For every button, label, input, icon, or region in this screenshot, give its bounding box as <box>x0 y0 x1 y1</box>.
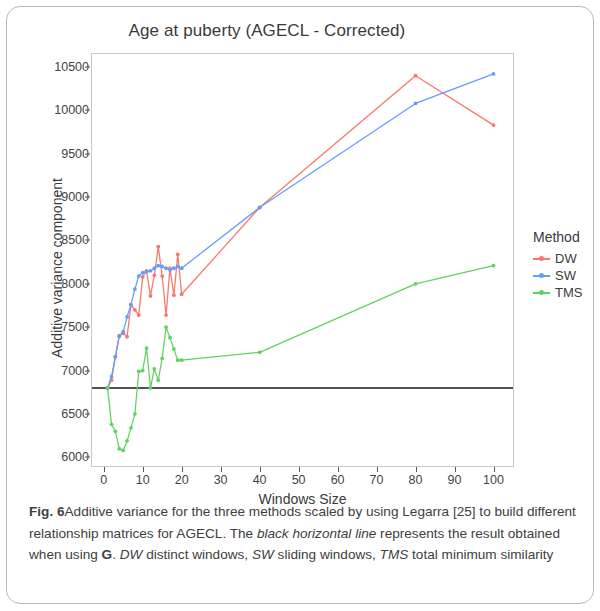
legend-item-dw[interactable]: DW <box>533 250 600 267</box>
data-point <box>133 287 137 291</box>
x-tick-label: 60 <box>318 473 358 487</box>
y-tick-mark <box>85 327 90 328</box>
data-point <box>258 206 262 210</box>
data-point <box>168 268 172 272</box>
x-tick-mark <box>338 467 339 472</box>
x-tick-label: 90 <box>435 473 475 487</box>
data-point <box>164 325 168 329</box>
x-tick-label: 70 <box>357 473 397 487</box>
data-point <box>172 266 176 270</box>
data-point <box>172 293 176 297</box>
y-tick-mark <box>85 283 90 284</box>
data-point <box>180 358 184 362</box>
y-tick-mark <box>85 457 90 458</box>
legend-item-sw[interactable]: SW <box>533 267 600 284</box>
x-tick-label: 20 <box>162 473 202 487</box>
data-point <box>141 369 145 373</box>
data-point <box>133 308 137 312</box>
data-point <box>258 350 262 354</box>
caption-emphasis-tms: TMS <box>380 547 409 562</box>
data-point <box>137 370 141 374</box>
caption-emphasis-blackline: black horizontal line <box>257 526 376 541</box>
legend-label: DW <box>555 251 577 266</box>
data-point <box>180 266 184 270</box>
series-line <box>108 74 494 388</box>
x-tick-label: 100 <box>474 473 514 487</box>
data-point <box>156 378 160 382</box>
data-point <box>176 358 180 362</box>
y-tick-mark <box>85 413 90 414</box>
data-point <box>160 265 164 269</box>
data-point <box>141 275 145 279</box>
data-point <box>176 252 180 256</box>
figure-card: Age at puberty (AGECL - Corrected) 60006… <box>6 6 594 604</box>
y-tick-mark <box>85 197 90 198</box>
y-tick-mark <box>85 110 90 111</box>
caption-emphasis-dw: DW <box>120 547 143 562</box>
series-line <box>108 76 494 388</box>
data-point <box>137 274 141 278</box>
caption-text-4: . <box>112 547 120 562</box>
series-line <box>108 266 494 451</box>
data-point <box>160 357 164 361</box>
plot-panel <box>91 53 514 467</box>
data-point <box>180 292 184 296</box>
data-point <box>156 245 160 249</box>
data-point <box>121 448 125 452</box>
caption-text-7: total minimum similarity <box>408 547 553 562</box>
data-point <box>414 102 418 106</box>
data-point <box>129 303 133 307</box>
data-point <box>117 447 121 451</box>
data-point <box>160 274 164 278</box>
data-point <box>113 429 117 433</box>
x-tick-label: 30 <box>201 473 241 487</box>
data-point <box>106 386 110 390</box>
data-point <box>168 336 172 340</box>
data-point <box>414 282 418 286</box>
y-tick-label: 6500 <box>27 407 89 421</box>
data-point <box>149 294 153 298</box>
y-tick-label: 10500 <box>27 60 89 74</box>
x-tick-mark <box>260 467 261 472</box>
data-point <box>176 265 180 269</box>
data-point <box>145 270 149 274</box>
data-point <box>492 72 496 76</box>
y-tick-mark <box>85 67 90 68</box>
data-point <box>125 335 129 339</box>
legend-title: Method <box>533 229 600 245</box>
data-point <box>110 422 114 426</box>
x-tick-label: 10 <box>123 473 163 487</box>
data-point <box>164 313 168 317</box>
x-tick-label: 0 <box>84 473 124 487</box>
chart-region: Age at puberty (AGECL - Corrected) 60006… <box>7 7 600 497</box>
data-point <box>125 439 129 443</box>
y-axis-title: Additive variance component <box>49 138 65 398</box>
x-tick-mark <box>104 467 105 472</box>
data-point <box>113 355 117 359</box>
data-point <box>492 123 496 127</box>
data-point <box>145 346 149 350</box>
data-point <box>152 266 156 270</box>
y-tick-label: 6000 <box>27 450 89 464</box>
data-point <box>141 271 145 275</box>
legend-swatch-icon <box>533 286 550 299</box>
data-point <box>414 74 418 78</box>
legend-entry-list: DWSWTMS <box>533 250 600 301</box>
x-tick-mark <box>143 467 144 472</box>
y-tick-mark <box>85 153 90 154</box>
x-tick-mark <box>299 467 300 472</box>
caption-text-6: sliding windows, <box>274 547 380 562</box>
x-tick-mark <box>455 467 456 472</box>
x-tick-mark <box>494 467 495 472</box>
caption-bold-g: G <box>102 547 113 562</box>
y-tick-label: 10000 <box>27 103 89 117</box>
legend-item-tms[interactable]: TMS <box>533 284 600 301</box>
y-tick-mark <box>85 240 90 241</box>
data-point <box>149 386 153 390</box>
legend-label: SW <box>555 268 576 283</box>
legend-label: TMS <box>555 285 582 300</box>
x-tick-label: 40 <box>240 473 280 487</box>
data-point <box>149 269 153 273</box>
caption-text-5: distinct windows, <box>146 547 252 562</box>
legend: Method DWSWTMS <box>533 229 600 301</box>
